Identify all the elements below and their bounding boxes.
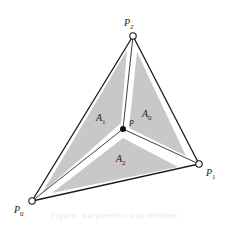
region-a0 <box>129 52 186 156</box>
interior-point-marker <box>120 126 126 132</box>
vertex-p0-marker <box>29 198 35 204</box>
interior-point-label: P <box>128 119 134 128</box>
vertex-p2-label: P2 <box>123 17 134 31</box>
vertex-p1-marker <box>196 161 202 167</box>
vertex-p2-marker <box>130 33 136 39</box>
barycentric-diagram: P2 P1 P0 P A1 A0 A2 <box>0 0 229 228</box>
faded-caption: Figure: barycentric coordinates <box>0 212 229 219</box>
vertex-p1-label: P1 <box>205 167 216 181</box>
